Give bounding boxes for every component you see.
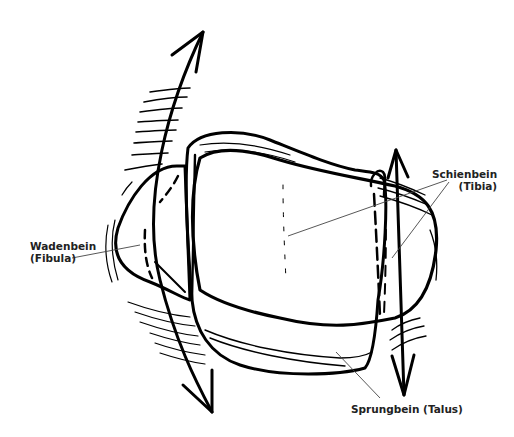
leader-lines xyxy=(72,180,449,398)
ankle-joint-diagram xyxy=(0,0,514,437)
talus-outline xyxy=(186,132,385,374)
label-fibula-line1: Wadenbein xyxy=(30,240,96,252)
label-fibula-line2: (Fibula) xyxy=(30,252,96,264)
label-talus: Sprungbein (Talus) xyxy=(351,403,463,415)
label-tibia: Schienbein (Tibia) xyxy=(432,168,497,192)
label-tibia-line2: (Tibia) xyxy=(432,180,497,192)
label-talus-line1: Sprungbein (Talus) xyxy=(351,403,463,415)
label-tibia-line1: Schienbein xyxy=(432,168,497,180)
label-fibula: Wadenbein (Fibula) xyxy=(30,240,96,264)
